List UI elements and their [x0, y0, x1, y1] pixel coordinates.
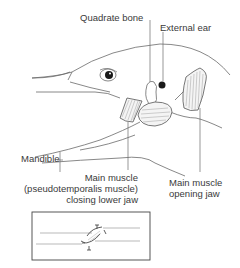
opening-muscle-line-2: opening jaw	[169, 188, 222, 199]
jaw-muscle-bulb	[138, 102, 172, 126]
opening-muscle	[183, 68, 207, 111]
opening-muscle-line-1: Main muscle	[169, 177, 222, 188]
lower-jaw-upper-line	[35, 122, 140, 157]
closing-muscle-line-3: closing lower jaw	[4, 194, 138, 205]
inset-schematic	[32, 212, 150, 260]
eye	[100, 68, 117, 81]
label-quadrate-bone: Quadrate bone	[80, 12, 143, 23]
upper-jaw-line	[36, 92, 120, 98]
bird-head-illustration	[0, 0, 240, 268]
external-ear	[159, 82, 166, 89]
closing-muscle-line-1: Main muscle	[4, 172, 138, 183]
label-external-ear: External ear	[160, 22, 211, 33]
label-opening-muscle: Main muscle opening jaw	[169, 177, 222, 199]
jaw-anatomy-diagram: Quadrate bone External ear Mandible Main…	[0, 0, 240, 268]
label-closing-muscle: Main muscle (pseudotemporalis muscle) cl…	[4, 172, 138, 205]
closing-muscle-line-2: (pseudotemporalis muscle)	[4, 183, 138, 194]
label-mandible: Mandible	[21, 153, 60, 164]
